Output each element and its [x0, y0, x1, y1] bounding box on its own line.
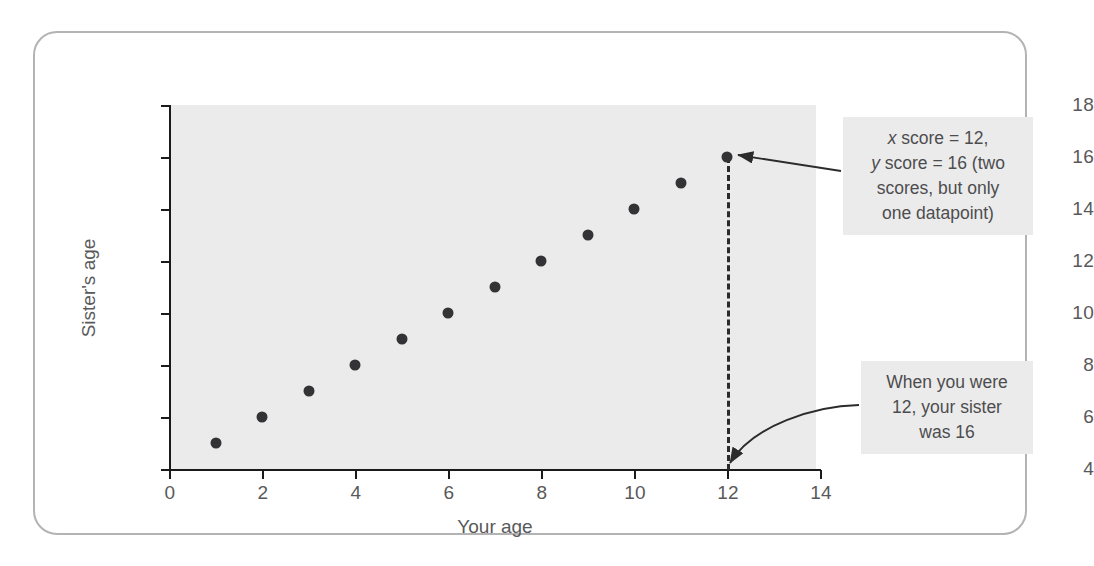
- y-axis-title: Sister's age: [78, 239, 100, 338]
- callout-scores-line4: one datapoint): [855, 201, 1021, 226]
- x-tick-0: [169, 470, 171, 479]
- callout-scores-line3: scores, but only: [855, 176, 1021, 201]
- callout-explain-line2: 12, your sister: [873, 395, 1021, 420]
- datapoint: [629, 204, 640, 215]
- x-axis-title: Your age: [457, 516, 532, 538]
- x-ticklabel-14: 14: [810, 482, 832, 504]
- y-ticklabel-18: 18: [974, 94, 1094, 116]
- scatter-chart: 18 16 14 12 10 8 6 4 0 2 4 6 8 10 12 14 …: [35, 33, 1094, 566]
- x-tick-6: [448, 470, 450, 479]
- datapoint: [443, 308, 454, 319]
- x-tick-8: [541, 470, 543, 479]
- y-ticklabel-10: 10: [974, 302, 1094, 324]
- callout-explain: When you were 12, your sister was 16: [861, 361, 1033, 454]
- figure-card: 18 16 14 12 10 8 6 4 0 2 4 6 8 10 12 14 …: [33, 31, 1027, 535]
- datapoint: [536, 256, 547, 267]
- italic-y: y: [871, 153, 880, 173]
- x-tick-4: [355, 470, 357, 479]
- datapoint: [211, 438, 222, 449]
- y-ticklabel-4: 4: [974, 458, 1094, 480]
- datapoint: [583, 230, 594, 241]
- datapoint: [257, 412, 268, 423]
- y-tick-16: [161, 157, 170, 159]
- callout-scores-line2-rest: score = 16 (two: [880, 153, 1005, 173]
- y-tick-14: [161, 209, 170, 211]
- callout-explain-line1: When you were: [873, 370, 1021, 395]
- y-ticklabel-12: 12: [974, 250, 1094, 272]
- x-ticklabel-8: 8: [537, 482, 548, 504]
- callout-scores-line1-rest: score = 12,: [896, 128, 988, 148]
- x-axis-line: [169, 469, 821, 471]
- datapoint: [350, 360, 361, 371]
- annotation-arrows: [35, 33, 1094, 566]
- y-tick-12: [161, 261, 170, 263]
- x-ticklabel-6: 6: [444, 482, 455, 504]
- datapoint: [490, 282, 501, 293]
- datapoint: [397, 334, 408, 345]
- datapoint: [676, 178, 687, 189]
- y-tick-10: [161, 313, 170, 315]
- datapoint-highlighted: [722, 152, 733, 163]
- callout-scores-line2: y score = 16 (two: [855, 151, 1021, 176]
- x-tick-10: [634, 470, 636, 479]
- y-tick-18: [161, 105, 170, 107]
- x-tick-12: [727, 470, 729, 479]
- y-tick-6: [161, 417, 170, 419]
- x-ticklabel-2: 2: [258, 482, 269, 504]
- x-ticklabel-4: 4: [351, 482, 362, 504]
- callout-scores-line1: x score = 12,: [855, 126, 1021, 151]
- reference-dropline: [727, 157, 730, 470]
- datapoint: [304, 386, 315, 397]
- x-ticklabel-12: 12: [717, 482, 739, 504]
- callout-explain-line3: was 16: [873, 420, 1021, 445]
- callout-scores: x score = 12, y score = 16 (two scores, …: [843, 117, 1033, 235]
- x-ticklabel-0: 0: [165, 482, 176, 504]
- x-tick-2: [262, 470, 264, 479]
- x-tick-14: [820, 470, 822, 479]
- x-ticklabel-10: 10: [624, 482, 646, 504]
- y-tick-8: [161, 365, 170, 367]
